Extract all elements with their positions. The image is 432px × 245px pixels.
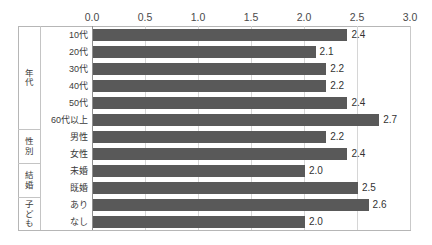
bar-value-label: 2.2 [326,63,344,75]
bar [93,165,305,177]
x-tick-label: 0.0 [85,9,100,25]
bar [93,148,347,160]
category-label: 40代 [69,81,88,92]
group-label-column: 年代性別結婚子ども [18,26,40,230]
bar-value-label: 2.4 [347,97,365,109]
bar [93,80,326,92]
x-tick-label: 1.0 [191,9,206,25]
bar-value-label: 2.4 [347,148,365,160]
x-tick-label: 1.5 [244,9,259,25]
group-label: 年代 [24,69,35,88]
x-tick-label: 3.0 [403,9,418,25]
bar-value-label: 2.7 [379,114,397,126]
category-label: 未婚 [70,166,88,177]
bar [93,97,347,109]
category-label-cell: 未婚 [41,163,91,180]
category-label: 20代 [69,47,88,58]
category-label: 50代 [69,98,88,109]
group-label-cell: 結婚 [18,163,40,197]
category-label-cell: 10代 [41,27,91,44]
bar [93,46,316,58]
bar-chart: 0.00.51.01.52.02.53.0 年代性別結婚子ども 10代20代30… [0,0,432,245]
x-tick-label: 2.5 [350,9,365,25]
category-label: 女性 [70,149,88,160]
category-label: 60代以上 [51,115,88,126]
bar [93,182,358,194]
bar-value-label: 2.0 [305,165,323,177]
bar-value-label: 2.2 [326,80,344,92]
plot-area: 2.42.12.22.22.42.72.22.42.02.52.62.0 [92,26,411,230]
bar-value-label: 2.1 [316,46,334,58]
group-label: 子ども [24,200,35,229]
category-label: 10代 [69,30,88,41]
bar-value-label: 2.2 [326,131,344,143]
category-label-cell: あり [41,197,91,214]
bar-value-label: 2.0 [305,216,323,228]
category-label-cell: 50代 [41,95,91,112]
category-label: あり [70,200,88,211]
gridline [410,26,411,230]
x-tick-label: 2.0 [297,9,312,25]
x-axis-tick-labels: 0.00.51.01.52.02.53.0 [0,9,432,25]
category-label: なし [70,217,88,228]
bar [93,29,347,41]
bar [93,63,326,75]
bar-value-label: 2.6 [369,199,387,211]
bar [93,114,379,126]
category-label: 既婚 [70,183,88,194]
bar [93,199,369,211]
bar [93,131,326,143]
category-label-column: 10代20代30代40代50代60代以上男性女性未婚既婚ありなし [40,26,92,230]
category-label-cell: 既婚 [41,180,91,197]
group-label-cell: 年代 [18,27,40,129]
x-tick-label: 0.5 [138,9,153,25]
category-label-cell: 20代 [41,44,91,61]
category-label-cell: 60代以上 [41,112,91,129]
group-label: 性別 [24,137,35,156]
category-label-cell: 30代 [41,61,91,78]
group-label: 結婚 [24,171,35,190]
category-label-cell: 女性 [41,146,91,163]
bar [93,216,305,228]
group-label-cell: 性別 [18,129,40,163]
category-label: 30代 [69,64,88,75]
bar-value-label: 2.5 [358,182,376,194]
bar-value-label: 2.4 [347,29,365,41]
category-label: 男性 [70,132,88,143]
group-label-cell: 子ども [18,197,40,231]
category-label-cell: 40代 [41,78,91,95]
category-label-cell: なし [41,214,91,231]
category-label-cell: 男性 [41,129,91,146]
